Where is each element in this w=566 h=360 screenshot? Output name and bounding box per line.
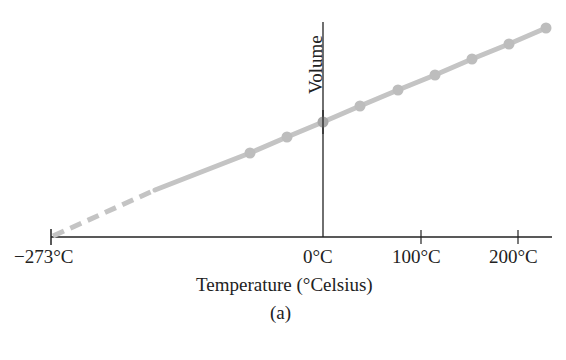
- tick-label-200: 200°C: [489, 246, 538, 268]
- tick-label-0: 0°C: [303, 246, 333, 268]
- y-axis-label: Volume: [305, 35, 327, 94]
- extrapolation-line: [53, 190, 155, 236]
- tick-label-minus273: −273°C: [14, 246, 74, 268]
- x-axis-label: Temperature (°Celsius): [196, 274, 373, 296]
- figure-caption: (a): [270, 302, 291, 324]
- data-line: [155, 28, 546, 190]
- tick-label-100: 100°C: [392, 246, 441, 268]
- data-markers: [245, 23, 552, 159]
